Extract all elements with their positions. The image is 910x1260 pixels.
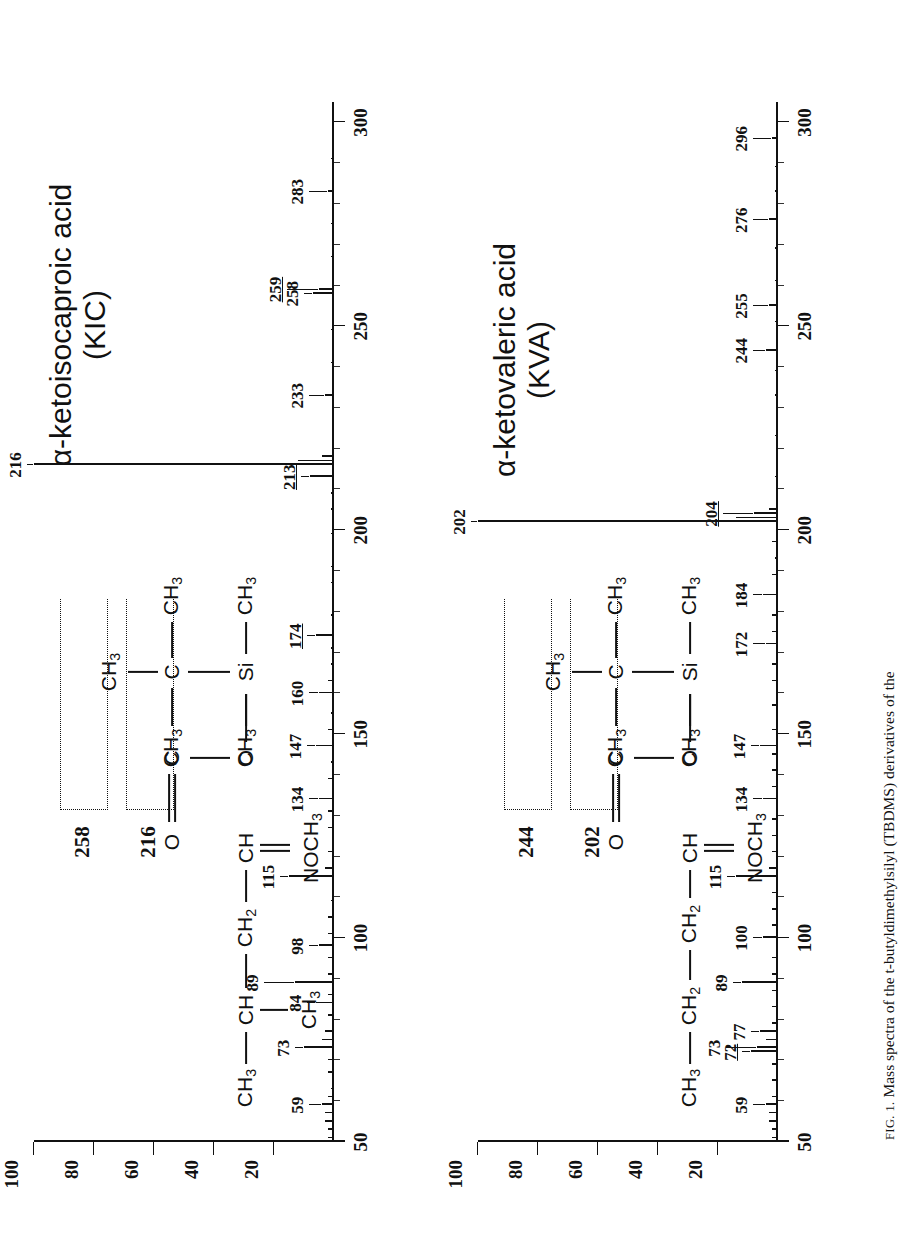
peak-leader-line bbox=[309, 692, 318, 693]
x-axis-tick bbox=[778, 529, 789, 531]
x-axis-tick-label: 100 bbox=[794, 908, 816, 968]
spectrum-peak bbox=[331, 329, 334, 330]
x-axis-minor-tick bbox=[334, 1059, 340, 1060]
peak-leader-line bbox=[295, 1047, 303, 1048]
peak-leader-line bbox=[753, 595, 762, 596]
x-axis-minor-tick bbox=[334, 285, 340, 286]
spectrum-peak bbox=[325, 1120, 334, 1121]
spectrum-peak bbox=[772, 973, 778, 974]
x-axis-minor-tick bbox=[334, 815, 340, 816]
spectrum-peak bbox=[772, 769, 778, 770]
peak-label: 276 bbox=[732, 208, 752, 234]
spectrum-peak bbox=[775, 370, 778, 371]
figure-caption: FIG. 1. Mass spectra of the t-butyldimet… bbox=[880, 40, 898, 1140]
peak-label: 233 bbox=[288, 383, 308, 409]
spectrum-peak bbox=[772, 680, 778, 681]
y-axis-tick bbox=[153, 1142, 155, 1155]
spectrum-peak bbox=[328, 851, 334, 852]
peak-leader-line bbox=[751, 1031, 759, 1032]
x-axis-minor-tick bbox=[334, 488, 340, 489]
peak-label: 89 bbox=[243, 974, 263, 991]
spectrum-peak bbox=[772, 704, 778, 705]
spectrum-peak bbox=[769, 867, 778, 868]
peak-label: 174 bbox=[286, 624, 306, 650]
spectrum-peak bbox=[328, 810, 334, 811]
spectrum-peak-labeled bbox=[316, 745, 334, 747]
spectrum-peak bbox=[775, 280, 778, 281]
x-axis-minor-tick bbox=[778, 407, 784, 408]
peak-label: 258 bbox=[283, 281, 303, 307]
spectrum-peak bbox=[772, 1137, 778, 1138]
spectrum-peak-labeled bbox=[757, 1046, 778, 1048]
x-axis-minor-tick bbox=[334, 692, 340, 693]
x-axis-minor-tick bbox=[334, 448, 340, 449]
spectrum-peak-labeled bbox=[295, 981, 334, 983]
peak-label: 59 bbox=[288, 1097, 308, 1114]
peak-leader-line bbox=[287, 289, 318, 290]
peak-leader-line bbox=[280, 876, 288, 877]
peak-label: 84 bbox=[286, 995, 306, 1012]
peak-leader-line bbox=[309, 1104, 321, 1105]
peak-label: 59 bbox=[732, 1097, 752, 1114]
peak-leader-line bbox=[753, 138, 771, 139]
x-axis-tick-label: 150 bbox=[794, 704, 816, 764]
x-axis-tick bbox=[334, 121, 345, 123]
peak-leader-line bbox=[733, 982, 741, 983]
x-axis-minor-tick bbox=[334, 366, 340, 367]
peak-label: 255 bbox=[732, 293, 752, 319]
x-axis-minor-tick bbox=[334, 244, 340, 245]
x-axis-minor-tick bbox=[334, 407, 340, 408]
peak-label: 160 bbox=[288, 681, 308, 707]
spectrum-peak bbox=[328, 916, 334, 917]
x-axis bbox=[776, 102, 778, 1142]
spectrum-peak bbox=[772, 786, 778, 787]
spectrum-peak bbox=[328, 778, 334, 779]
x-axis-minor-tick bbox=[778, 488, 784, 489]
y-axis-tick bbox=[537, 1142, 539, 1155]
peak-leader-line bbox=[27, 464, 33, 465]
spectrum-peak bbox=[328, 994, 334, 995]
spectrum-peak-labeled bbox=[316, 634, 334, 636]
y-axis-tick bbox=[33, 1142, 35, 1155]
spectrum-peak-labeled bbox=[313, 292, 334, 294]
spectrum-peak-labeled bbox=[772, 137, 778, 139]
y-axis-tick bbox=[717, 1142, 719, 1155]
x-axis-tick bbox=[334, 1141, 345, 1143]
x-axis-tick-label: 150 bbox=[350, 704, 372, 764]
spectrum-peak bbox=[328, 827, 334, 828]
peak-leader-line bbox=[301, 476, 309, 477]
y-axis bbox=[34, 1140, 334, 1142]
spectrum-peak bbox=[331, 615, 334, 616]
x-axis-minor-tick bbox=[778, 162, 784, 163]
peak-label: 202 bbox=[450, 509, 470, 535]
x-axis-minor-tick bbox=[334, 1100, 340, 1101]
x-axis-tick bbox=[778, 1141, 789, 1143]
y-axis-tick bbox=[477, 1142, 479, 1155]
spectrum-peak-labeled bbox=[751, 1050, 778, 1052]
x-axis-tick-label: 200 bbox=[794, 500, 816, 560]
spectrum-peak bbox=[772, 615, 778, 616]
peak-leader-line bbox=[753, 219, 768, 220]
x-axis-tick bbox=[778, 121, 789, 123]
peak-leader-line bbox=[753, 798, 762, 799]
spectrum-peak bbox=[775, 557, 778, 558]
spectrum-peak-labeled bbox=[325, 394, 334, 396]
spectrum-peak-labeled bbox=[34, 463, 334, 465]
spectrum-peak bbox=[775, 166, 778, 167]
peak-label: 213 bbox=[280, 464, 300, 490]
x-axis-minor-tick bbox=[334, 652, 340, 653]
x-axis-minor-tick bbox=[778, 692, 784, 693]
peak-label: 283 bbox=[288, 179, 308, 205]
peak-label: 244 bbox=[732, 338, 752, 364]
x-axis-tick-label: 300 bbox=[350, 92, 372, 152]
spectrum-panel-kva: α-ketovaleric acid (KVA) CH3CH2CH2CHNOCH… bbox=[452, 10, 882, 1260]
spectrum-peak bbox=[328, 1128, 334, 1129]
mass-spectrum-plot-kva: 1008060402050100150200250300597273778910… bbox=[478, 102, 778, 1142]
y-axis-tick-label: 80 bbox=[61, 1160, 83, 1194]
spectrum-peak bbox=[775, 247, 778, 248]
spectrum-peak-labeled bbox=[742, 981, 778, 983]
spectrum-peak-labeled bbox=[304, 1046, 334, 1048]
spectrum-peak-labeled bbox=[766, 643, 778, 645]
x-axis-tick bbox=[778, 937, 789, 939]
spectrum-peak bbox=[775, 394, 778, 395]
